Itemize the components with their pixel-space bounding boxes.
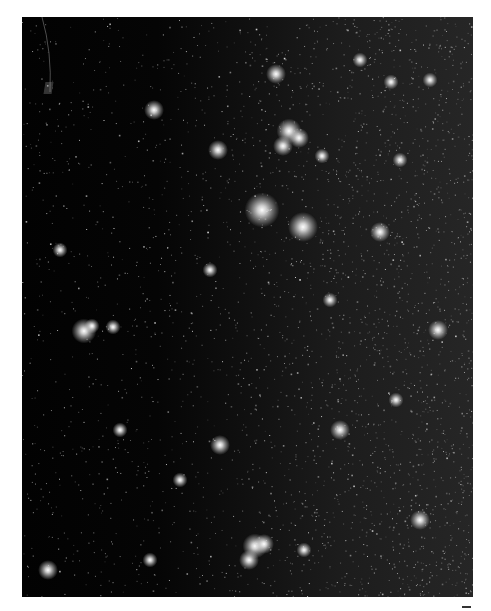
star-field-canvas <box>22 17 473 597</box>
faint-margin-mark <box>2 28 20 58</box>
corner-mark <box>462 606 471 608</box>
star-field-photo <box>22 17 473 597</box>
